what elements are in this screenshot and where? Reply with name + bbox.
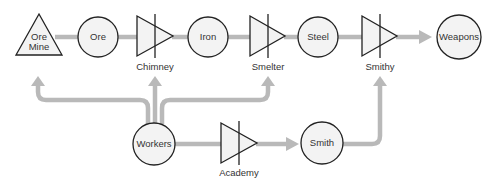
- smithy-label: Smithy: [365, 61, 394, 72]
- ore-mine-source-node: Ore Mine: [16, 14, 62, 55]
- ore-mine-label-line2: Mine: [29, 41, 50, 52]
- smelter-converter-node: Smelter: [250, 14, 285, 72]
- academy-converter-node: Academy: [219, 121, 259, 178]
- weapons-pool-node: Weapons: [437, 15, 481, 59]
- chimney-label: Chimney: [136, 61, 174, 72]
- iron-label: Iron: [200, 31, 216, 42]
- ore-label: Ore: [90, 31, 106, 42]
- ore-pool-node: Ore: [78, 17, 118, 57]
- academy-label: Academy: [219, 167, 259, 178]
- workers-pool-node: Workers: [133, 123, 175, 165]
- weapons-label: Weapons: [439, 31, 479, 42]
- steel-label: Steel: [307, 31, 329, 42]
- smith-pool-node: Smith: [301, 122, 343, 164]
- smelter-label: Smelter: [252, 61, 285, 72]
- arrowhead-to-weapons: [419, 30, 432, 44]
- steel-pool-node: Steel: [298, 17, 338, 57]
- workers-label: Workers: [136, 138, 171, 149]
- chimney-converter-node: Chimney: [136, 14, 174, 72]
- iron-pool-node: Iron: [188, 17, 228, 57]
- resource-flow-diagram: Ore Mine Ore Iron Steel Weapons Workers …: [0, 0, 492, 184]
- arrowhead-to-smith: [286, 137, 299, 151]
- smithy-converter-node: Smithy: [362, 14, 397, 72]
- smith-label: Smith: [310, 137, 334, 148]
